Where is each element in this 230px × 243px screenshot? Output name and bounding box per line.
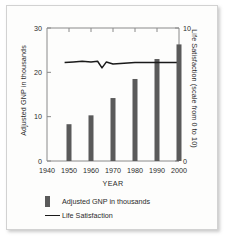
chart-plot-area: Adjusted GNP in thousands Life Satisfact… (7, 6, 219, 231)
y-axis-tick-label: 0 (28, 157, 42, 166)
bar (89, 115, 94, 161)
x-axis-tick-label: 2000 (167, 166, 191, 175)
chart-card: Adjusted GNP in thousands Life Satisfact… (6, 5, 218, 230)
legend-bar-swatch (45, 196, 50, 207)
y-axis-tick-label: 20 (28, 68, 42, 77)
x-axis-tick-label: 1990 (145, 166, 169, 175)
x-axis-tick-label: 1980 (123, 166, 147, 175)
bar (133, 79, 138, 161)
legend-line-swatch (45, 215, 60, 216)
legend-line-label: Life Satisfaction (62, 211, 113, 220)
y-axis-tick-label: 10 (28, 112, 42, 121)
life-satisfaction-line (65, 61, 177, 68)
x-axis-tick-label: 1950 (57, 166, 81, 175)
y2-axis-tick-label: 10 (183, 24, 197, 33)
bar (155, 59, 160, 161)
y-axis-title: Adjusted GNP in thousands (19, 31, 28, 151)
legend-item-gnp: Adjusted GNP in thousands (45, 196, 150, 207)
bar (111, 98, 116, 161)
x-axis-title: YEAR (43, 179, 183, 188)
x-axis-tick-label: 1940 (35, 166, 59, 175)
y2-axis-title: Life Satisfaction (scale from 0 to 10) (190, 18, 199, 160)
x-axis-tick-label: 1970 (101, 166, 125, 175)
y-axis-tick-label: 30 (28, 24, 42, 33)
x-axis-tick-label: 1960 (79, 166, 103, 175)
y2-axis-tick-label: 0 (183, 157, 197, 166)
bar (67, 124, 72, 161)
legend-bar-label: Adjusted GNP in thousands (62, 197, 150, 206)
bar (177, 44, 182, 161)
legend-item-life-satisfaction: Life Satisfaction (45, 211, 113, 220)
